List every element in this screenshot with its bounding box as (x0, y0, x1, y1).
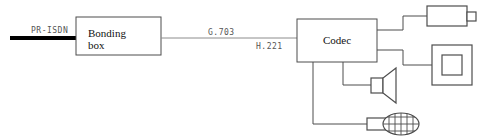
codec-camera-link-line (377, 16, 427, 30)
bonding-box-label: Bonding box (88, 27, 126, 51)
camera-body-shape (427, 6, 467, 26)
codec-microphone-link-line (313, 62, 367, 124)
h221-label: H.221 (256, 42, 283, 51)
monitor-screen-shape (442, 55, 462, 75)
codec-loudspeaker-link-line (343, 62, 371, 85)
camera-lens-shape (467, 12, 476, 21)
g703-label: G.703 (208, 28, 235, 37)
codec-box-label: Codec (297, 34, 377, 46)
diagram-canvas: Bonding box Codec PR-ISDN G.703 H.221 (0, 0, 495, 138)
loudspeaker-cone-shape (383, 68, 396, 103)
loudspeaker-driver-shape (371, 78, 383, 93)
codec-monitor-link-line (377, 50, 432, 65)
pr-isdn-label: PR-ISDN (31, 26, 68, 35)
diagram-svg (0, 0, 495, 138)
